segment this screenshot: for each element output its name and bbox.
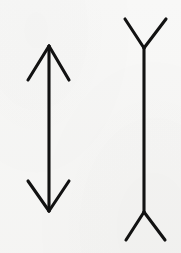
right-figure-bottom-left-fin [126,212,144,240]
right-figure-top-right-fin [144,19,166,48]
muller-lyer-figure-group [0,0,181,253]
left-figure-top-left-fin [28,46,49,80]
right-figure-bottom-right-fin [144,212,165,240]
right-figure-arrow-fins-out [125,19,166,240]
left-figure-bottom-left-fin [28,181,49,211]
left-figure-bottom-right-fin [49,181,69,211]
drawing-canvas [0,0,181,253]
left-figure-arrow-fins-in [28,46,69,211]
left-figure-top-right-fin [49,46,69,80]
right-figure-top-left-fin [125,19,144,48]
